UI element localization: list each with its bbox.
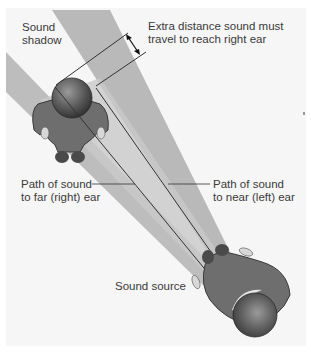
sound-source-label: Sound source	[115, 280, 186, 293]
source-head	[233, 293, 277, 337]
listener-head	[52, 78, 92, 118]
near-path-label: Path of sound to near (left) ear	[213, 178, 295, 204]
diagram-canvas	[0, 0, 311, 354]
arrow-head-down	[134, 49, 140, 55]
arrow-head-up	[126, 34, 132, 40]
source-figure	[190, 244, 290, 337]
far-path-label: Path of sound to far (right) ear	[21, 178, 100, 204]
extra-distance-label: Extra distance sound must travel to reac…	[148, 20, 284, 46]
edge-mark	[303, 112, 305, 115]
sound-shadow-label: Sound shadow	[22, 21, 62, 47]
